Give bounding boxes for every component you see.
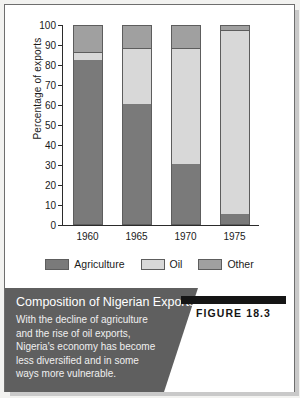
bar-segment-oil	[172, 48, 200, 164]
y-tick-label: 80	[45, 60, 56, 71]
y-tick-label: 60	[45, 100, 56, 111]
stacked-bar	[73, 25, 103, 225]
caption-line: ways more vulnerable.	[16, 367, 196, 381]
y-tick-label: 0	[50, 220, 56, 231]
bar-segment-agriculture	[221, 214, 249, 224]
caption-line: less diversified and in some	[16, 354, 196, 368]
bar-segment-agriculture	[123, 104, 151, 224]
y-tick	[58, 85, 63, 86]
bar-segment-oil	[123, 48, 151, 104]
y-tick	[58, 25, 63, 26]
y-tick-label: 10	[45, 200, 56, 211]
figure-container: Percentage of exports 010203040506070809…	[0, 0, 300, 398]
stacked-bar	[220, 25, 250, 225]
page-shadow-bottom	[10, 392, 299, 396]
y-tick	[58, 185, 63, 186]
bar-segment-oil	[221, 30, 249, 214]
legend-label: Other	[227, 258, 253, 270]
y-tick-label: 90	[45, 40, 56, 51]
y-tick	[58, 65, 63, 66]
y-tick-label: 20	[45, 180, 56, 191]
y-tick	[58, 225, 63, 226]
caption-body: With the decline of agricultureand the r…	[16, 313, 196, 381]
plot-area: 0102030405060708090100 1960196519701975	[63, 25, 259, 225]
legend-item-other: Other	[198, 258, 253, 270]
bar-segment-agriculture	[74, 60, 102, 224]
legend-label: Oil	[170, 258, 183, 270]
bar-segment-agriculture	[172, 164, 200, 224]
y-tick	[58, 125, 63, 126]
y-tick	[58, 165, 63, 166]
figure-badge: FIGURE 18.3	[181, 296, 286, 319]
stacked-bar	[122, 25, 152, 225]
y-tick	[58, 45, 63, 46]
caption-line: Nigeria's economy has become	[16, 340, 196, 354]
y-tick	[58, 145, 63, 146]
stacked-bar	[171, 25, 201, 225]
bar-segment-other	[123, 25, 151, 48]
page-shadow-right	[295, 10, 299, 396]
caption-line: and the rise of oil exports,	[16, 327, 196, 341]
chart-panel: Percentage of exports 010203040506070809…	[5, 5, 294, 288]
legend-label: Agriculture	[74, 258, 124, 270]
y-tick-label: 70	[45, 80, 56, 91]
legend-swatch	[198, 259, 222, 270]
y-tick-label: 30	[45, 160, 56, 171]
x-tick-label: 1975	[205, 231, 265, 242]
bar-segment-other	[74, 25, 102, 52]
caption-title: Composition of Nigerian Exports	[16, 295, 195, 309]
y-tick	[58, 205, 63, 206]
caption-line: With the decline of agriculture	[16, 313, 196, 327]
figure-badge-bar	[181, 296, 286, 304]
x-axis-line	[62, 225, 259, 226]
figure-number: FIGURE 18.3	[181, 307, 286, 319]
y-tick-label: 50	[45, 120, 56, 131]
y-tick-label: 100	[39, 20, 56, 31]
chart-legend: AgricultureOilOther	[5, 253, 294, 275]
bar-segment-other	[221, 25, 249, 30]
legend-swatch	[141, 259, 165, 270]
bar-segment-oil	[74, 52, 102, 60]
y-axis-label: Percentage of exports	[32, 19, 43, 159]
legend-item-agriculture: Agriculture	[45, 258, 124, 270]
caption-band: Composition of Nigerian Exports With the…	[5, 288, 294, 392]
bar-segment-other	[172, 25, 200, 48]
y-tick	[58, 105, 63, 106]
legend-item-oil: Oil	[141, 258, 183, 270]
legend-swatch	[45, 259, 69, 270]
y-tick-label: 40	[45, 140, 56, 151]
